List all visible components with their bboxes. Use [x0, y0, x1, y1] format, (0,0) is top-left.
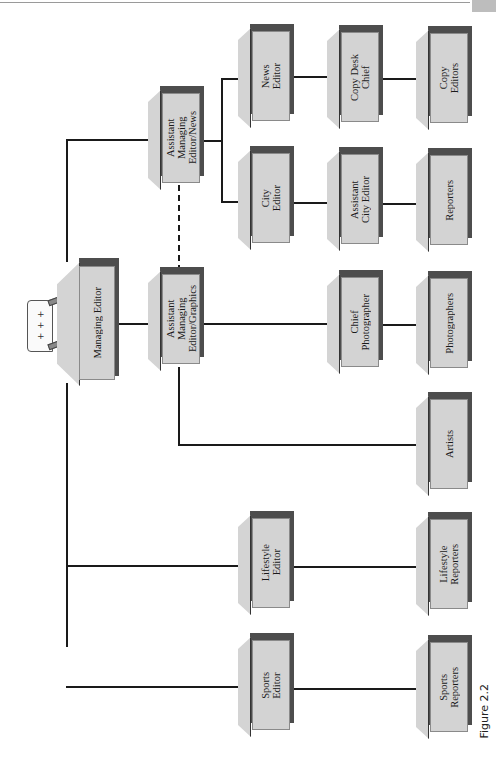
- node-ame-news[interactable]: Assistant Managing Editor/News: [148, 90, 206, 190]
- node-label: Assistant Managing Editor/Graphics: [165, 285, 198, 352]
- connector-me-spine-bottom: [66, 383, 68, 647]
- connector-lifestyle-to-reporters: [292, 566, 417, 568]
- node-lifestyle-reporters[interactable]: Lifestyle Reporters: [416, 516, 474, 616]
- connector-me-to-sports: [66, 686, 238, 688]
- node-photographers[interactable]: Photographers: [416, 275, 474, 375]
- node-label: News Editor: [260, 63, 282, 89]
- connector-city-to-asstcity: [292, 202, 328, 204]
- node-assistant-city-editor[interactable]: Assistant City Editor: [327, 151, 385, 251]
- connector-me-spine-top: [66, 139, 68, 262]
- node-sports-reporters[interactable]: Sports Reporters: [416, 639, 474, 739]
- node-artists[interactable]: Artists: [416, 396, 474, 496]
- node-lifestyle-editor[interactable]: Lifestyle Editor: [238, 515, 296, 615]
- node-label: Artists: [444, 430, 455, 458]
- page-corner-tab: [472, 0, 496, 12]
- node-reporters[interactable]: Reporters: [416, 152, 474, 252]
- node-ame-graphics[interactable]: Assistant Managing Editor/Graphics: [148, 271, 206, 371]
- node-label: Assistant City Editor: [349, 176, 371, 223]
- node-label: Photographers: [444, 293, 455, 354]
- node-label: Managing Editor: [92, 287, 103, 358]
- node-news-editor[interactable]: News Editor: [238, 28, 296, 128]
- node-label: Lifestyle Editor: [260, 544, 282, 581]
- connector-ame-news-branch: [221, 78, 223, 202]
- connector-ame-news-out: [204, 140, 222, 142]
- connector-chiefphoto-to-photographers: [381, 324, 417, 326]
- node-label: Chief Photographer: [349, 294, 371, 351]
- node-managing-editor[interactable]: Managing Editor: [57, 262, 115, 386]
- node-label: City Editor: [260, 185, 282, 211]
- node-label: Copy Desk Chief: [349, 54, 371, 101]
- node-label: Sports Reporters: [438, 667, 460, 708]
- node-label: Lifestyle Reporters: [438, 544, 460, 585]
- node-label: Assistant Managing Editor/News: [165, 111, 198, 164]
- connector-ame-graphics-down: [178, 367, 180, 445]
- connector-to-city-editor: [221, 201, 239, 203]
- node-copy-editors[interactable]: Copy Editors: [416, 30, 474, 130]
- node-copy-desk-chief[interactable]: Copy Desk Chief: [327, 29, 385, 129]
- node-chief-photographer[interactable]: Chief Photographer: [327, 274, 385, 374]
- connector-me-to-lifestyle: [66, 565, 238, 567]
- connector-me-to-ame-news: [66, 139, 150, 141]
- node-label: Copy Editors: [438, 63, 460, 93]
- connector-ame-graphics-to-chief-photo: [204, 323, 328, 325]
- connector-news-to-copydesk: [292, 76, 328, 78]
- node-sports-editor[interactable]: Sports Editor: [238, 637, 296, 737]
- connector-to-news-editor: [221, 78, 239, 80]
- figure-caption: Figure 2.2: [478, 684, 491, 739]
- node-label: Sports Editor: [260, 672, 282, 699]
- connector-asstcity-to-reporters: [381, 203, 417, 205]
- connector-dashed-news-graphics: [178, 185, 180, 271]
- connector-to-artists: [178, 444, 417, 446]
- connector-copydesk-to-copyeditors: [381, 78, 417, 80]
- node-city-editor[interactable]: City Editor: [238, 150, 296, 250]
- connector-sports-to-reporters: [292, 688, 417, 690]
- node-label: Reporters: [444, 180, 455, 221]
- page-top-rule: [0, 2, 470, 3]
